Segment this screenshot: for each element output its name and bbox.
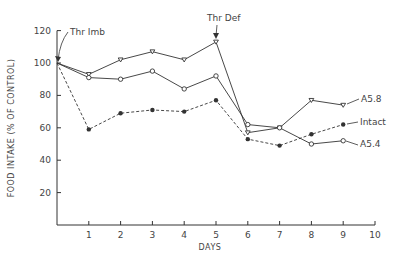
series-group <box>57 40 346 148</box>
data-point <box>214 40 219 44</box>
x-tick-label: 6 <box>245 230 251 240</box>
data-point <box>87 127 91 131</box>
x-tick-label: 9 <box>340 230 346 240</box>
data-point <box>182 109 186 113</box>
series-a5-4 <box>57 63 345 146</box>
data-point <box>341 103 346 107</box>
data-point <box>214 98 218 102</box>
legend-pointer-a58 <box>347 99 359 104</box>
x-tick-label: 4 <box>181 230 187 240</box>
data-point <box>150 69 154 73</box>
data-point <box>277 126 281 130</box>
data-point <box>118 77 122 81</box>
data-point <box>118 111 122 115</box>
annotation-thr-imb-arrow <box>58 32 68 60</box>
food-intake-chart: 2040608010012012345678910 DAYS FOOD INTA… <box>0 0 398 263</box>
series-line <box>57 63 343 146</box>
data-point <box>150 108 154 112</box>
data-point <box>182 87 186 91</box>
legend-label-a54: A5.4 <box>360 139 381 149</box>
data-point <box>341 139 345 143</box>
arrowhead-icon <box>213 33 219 39</box>
y-tick-label: 60 <box>40 123 52 133</box>
series-intact <box>57 63 345 148</box>
legend-pointer-a54 <box>346 141 358 145</box>
data-point <box>150 50 155 54</box>
y-tick-label: 100 <box>34 58 51 68</box>
y-tick-label: 20 <box>40 188 52 198</box>
y-axis-title: FOOD INTAKE (% OF CONTROL) <box>7 59 16 198</box>
x-tick-label: 7 <box>277 230 283 240</box>
legend-label-intact: Intact <box>360 117 386 127</box>
data-point <box>277 143 281 147</box>
y-tick-label: 40 <box>40 155 52 165</box>
legend-label-a58: A5.8 <box>361 94 382 104</box>
data-point <box>246 137 250 141</box>
series-a5-8 <box>57 40 346 135</box>
data-point <box>87 75 91 79</box>
x-tick-label: 3 <box>150 230 156 240</box>
legend-pointer-intact <box>347 122 358 124</box>
annotation-thr-def: Thr Def <box>206 13 241 23</box>
data-point <box>118 58 123 62</box>
series-line <box>57 42 343 133</box>
data-point <box>246 122 250 126</box>
y-tick-label: 80 <box>40 90 52 100</box>
data-point <box>309 142 313 146</box>
x-tick-label: 2 <box>118 230 124 240</box>
data-point <box>214 74 218 78</box>
data-point <box>341 122 345 126</box>
y-tick-label: 120 <box>34 26 51 36</box>
data-point <box>245 131 250 135</box>
data-point <box>182 58 187 62</box>
series-line <box>57 63 343 144</box>
x-tick-label: 10 <box>369 230 381 240</box>
x-axis-title: DAYS <box>199 243 222 252</box>
x-tick-label: 8 <box>309 230 315 240</box>
annotation-thr-imb: Thr Imb <box>69 27 105 37</box>
axes: 2040608010012012345678910 <box>34 26 381 240</box>
data-point <box>309 132 313 136</box>
x-tick-label: 1 <box>86 230 92 240</box>
x-tick-label: 5 <box>213 230 219 240</box>
arrowhead-icon <box>55 56 61 62</box>
